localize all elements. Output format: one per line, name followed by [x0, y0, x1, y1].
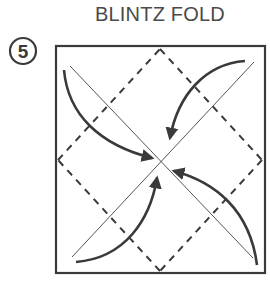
arrow-top-left-icon [64, 70, 152, 158]
paper-square [56, 46, 265, 273]
blintz-fold-diagram [0, 0, 270, 293]
arrow-bottom-left-icon [76, 178, 157, 262]
diagonal-creases [70, 62, 254, 258]
